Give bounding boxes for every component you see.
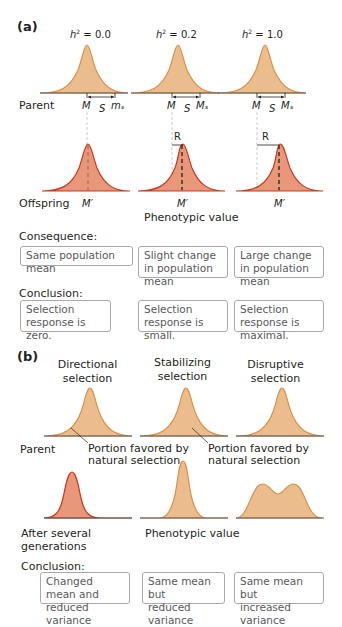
parent-curve-h02: [131, 45, 219, 93]
selected-mean-label: Mₛ: [196, 100, 208, 111]
offspring-mean-label: M′: [82, 198, 93, 209]
label-line: After several: [21, 527, 91, 540]
offspring-mean-label: M′: [177, 198, 188, 209]
title-line: Disruptive: [238, 358, 313, 372]
row-label-parent: Parent: [19, 99, 54, 112]
title-line: selection: [145, 370, 220, 384]
title-line: Directional: [50, 358, 125, 372]
conclusion-box-a2: Selection response is maximal.: [234, 300, 324, 332]
after-curve-directional: [44, 472, 132, 518]
panel-b-label: (b): [17, 349, 38, 364]
h-value: = 1.0: [255, 29, 282, 40]
label-line: generations: [21, 540, 91, 553]
consequence-box-1: Slight change in population mean: [138, 246, 228, 278]
selection-differential-brackets: [87, 93, 285, 98]
column-title-stabilizing: Stabilizing selection: [145, 356, 220, 384]
conclusion-box-b1: Same mean but reduced variance: [142, 572, 225, 604]
conclusion-heading-a: Conclusion:: [19, 287, 83, 300]
consequence-box-2: Large change in population mean: [234, 246, 324, 278]
conclusion-box-b2: Same mean but increased variance: [234, 572, 324, 604]
annotation-portion-favored-1: Portion favored by natural selection: [88, 443, 189, 467]
title-line: selection: [238, 372, 313, 386]
mean-label: M: [167, 100, 176, 111]
parent-curve-directional: [44, 388, 132, 436]
annotation-line: natural selection: [208, 455, 309, 467]
parent-curve-h1: [218, 45, 306, 93]
selected-mean-label: Mₛ: [281, 100, 293, 111]
consequence-box-0: Same population mean: [20, 246, 133, 266]
row-label-parent-b: Parent: [20, 443, 55, 456]
row-label-after-generations: After several generations: [21, 527, 91, 553]
x-axis-label-b: Phenotypic value: [145, 527, 240, 540]
h-value: = 0.0: [83, 29, 110, 40]
mean-label: M: [82, 100, 91, 111]
column-title-directional: Directional selection: [50, 358, 125, 386]
selection-differential-label: S: [99, 103, 105, 114]
selection-differential-label: S: [184, 103, 190, 114]
box-line: reduced variance: [148, 601, 219, 627]
conclusion-box-a0: Selection response is zero.: [20, 300, 111, 332]
box-line: Same mean but: [240, 575, 318, 601]
parent-curve-disruptive: [236, 388, 324, 436]
response-label-h02: R: [174, 131, 181, 142]
title-line: selection: [50, 372, 125, 386]
heritability-label-2: h2 = 1.0: [242, 28, 283, 40]
selected-mean-label: mₛ: [111, 100, 124, 111]
conclusion-box-a1: Selection response is small.: [138, 300, 228, 332]
annotation-line: natural selection: [88, 455, 189, 467]
offspring-curve-h0: [42, 144, 130, 191]
box-line: reduced variance: [46, 601, 124, 627]
consequence-heading: Consequence:: [19, 230, 97, 243]
after-curve-disruptive: [236, 484, 322, 518]
response-label-h1: R: [262, 131, 269, 142]
heritability-label-1: h2 = 0.2: [156, 28, 197, 40]
h-value: = 0.2: [169, 29, 196, 40]
parent-curve-stabilizing: [140, 388, 228, 436]
title-line: Stabilizing: [145, 356, 220, 370]
column-title-disruptive: Disruptive selection: [238, 358, 313, 386]
annotation-portion-favored-2: Portion favored by natural selection: [208, 443, 309, 467]
mean-label: M: [252, 100, 261, 111]
box-line: increased variance: [240, 601, 318, 627]
box-line: Changed mean and: [46, 575, 124, 601]
box-line: Same mean but: [148, 575, 219, 601]
parent-curve-h0: [40, 45, 128, 93]
row-label-offspring: Offspring: [19, 197, 69, 210]
conclusion-box-b0: Changed mean and reduced variance: [40, 572, 130, 604]
heritability-label-0: h2 = 0.0: [70, 28, 111, 40]
offspring-mean-label: M′: [274, 198, 285, 209]
after-curve-stabilizing: [140, 461, 228, 518]
x-axis-label: Phenotypic value: [144, 211, 239, 224]
panel-a-label: (a): [17, 19, 38, 34]
selection-differential-label: S: [269, 103, 275, 114]
